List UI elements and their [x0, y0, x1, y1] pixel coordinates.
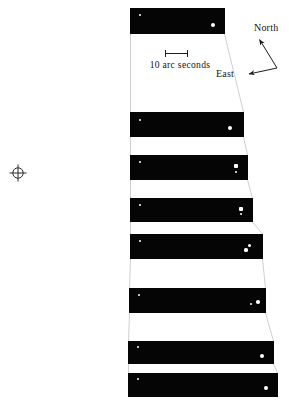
guide-line-left [130, 259, 131, 288]
observation-strip [130, 8, 225, 34]
guide-line-right [266, 313, 274, 341]
observation-strip [130, 112, 244, 137]
guide-line-right [263, 259, 266, 288]
companion-star [239, 207, 242, 210]
north-arrow [260, 40, 278, 69]
companion-star [260, 354, 264, 358]
companion-star [248, 244, 251, 247]
compass-east-label: East [216, 68, 234, 79]
companion-star-faint [240, 213, 242, 215]
crosshair-target-symbol [8, 163, 28, 183]
guide-line-left [129, 313, 130, 341]
companion-star [264, 386, 268, 390]
companion-star [234, 164, 237, 167]
companion-star [256, 300, 260, 304]
observation-strip [128, 341, 274, 364]
guide-line-right [248, 180, 253, 198]
compass-rose: North East [228, 24, 289, 82]
companion-star-secondary [244, 248, 247, 251]
scale-caption: 10 arc seconds [140, 59, 220, 70]
companion-star [211, 23, 215, 27]
observation-figure: October 19, 1919October 22, 1933November… [0, 0, 289, 404]
guide-line-right [253, 222, 263, 234]
guide-line-right [244, 137, 248, 155]
compass-north-label: North [254, 22, 278, 33]
observation-strip [130, 234, 263, 259]
guide-line-right [274, 364, 278, 373]
east-arrow [249, 68, 277, 74]
observation-strip [130, 155, 248, 180]
observation-strip [128, 373, 278, 397]
observation-strip [129, 288, 266, 313]
companion-star-faint [235, 171, 237, 173]
observation-strip [130, 198, 253, 222]
scale-indicator: 10 arc seconds [140, 46, 220, 72]
scale-bar-icon [140, 46, 220, 60]
crosshair-icon [8, 163, 28, 183]
